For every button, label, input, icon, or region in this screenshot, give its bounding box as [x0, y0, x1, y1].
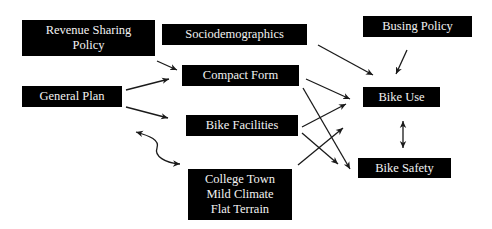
node-label-line: College Town	[205, 172, 275, 187]
node-label-line: Mild Climate	[206, 187, 273, 202]
arrow-general-college-curved	[136, 132, 180, 164]
node-label-line: Bike Safety	[375, 161, 434, 176]
node-busing-policy: Busing Policy	[363, 16, 472, 37]
node-bike-safety: Bike Safety	[358, 158, 451, 178]
node-bike-facilities: Bike Facilities	[186, 115, 298, 136]
node-sociodemographics: Sociodemographics	[162, 24, 307, 45]
node-label-line: Busing Policy	[382, 19, 453, 34]
node-label-line: Policy	[73, 38, 105, 53]
node-compact-form: Compact Form	[182, 65, 299, 86]
node-label-line: Sociodemographics	[185, 27, 284, 42]
node-bike-use: Bike Use	[363, 87, 440, 107]
node-label-line: General Plan	[40, 89, 105, 104]
arrow-compact-to-bikeuse	[306, 79, 350, 99]
arrow-general-to-facilities	[126, 107, 168, 118]
node-college-town: College Town Mild Climate Flat Terrain	[188, 169, 292, 220]
arrow-general-to-compact	[126, 79, 169, 90]
node-label-line: Bike Facilities	[206, 118, 279, 133]
arrow-socio-to-bikeuse	[318, 45, 373, 75]
node-label-line: Revenue Sharing	[46, 23, 132, 38]
arrow-facilities-to-bikesafety	[302, 133, 338, 164]
node-label-line: Flat Terrain	[211, 202, 269, 217]
arrow-revenue-to-compact	[157, 61, 177, 70]
node-label-line: Compact Form	[203, 68, 278, 83]
node-general-plan: General Plan	[22, 86, 122, 107]
node-label-line: Bike Use	[378, 90, 424, 105]
arrow-busing-to-bikeuse	[396, 50, 407, 74]
node-revenue-sharing-policy: Revenue Sharing Policy	[22, 20, 155, 56]
